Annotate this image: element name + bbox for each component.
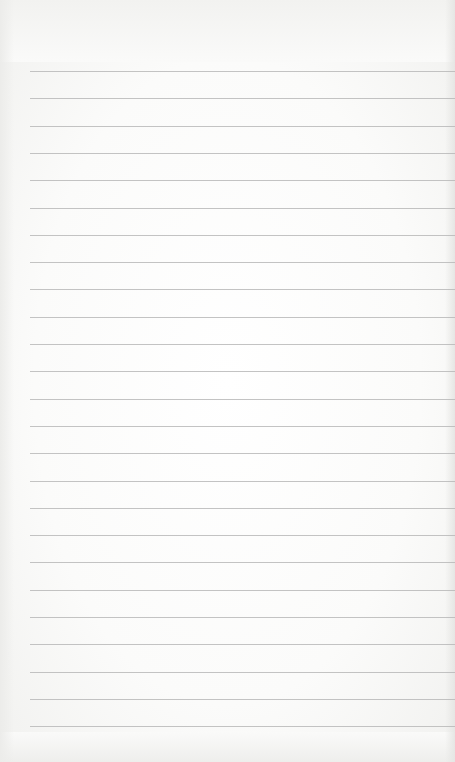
ruled-line: [30, 453, 455, 454]
ruled-line: [30, 672, 455, 673]
ruled-line: [30, 71, 455, 72]
ruled-line: [30, 371, 455, 372]
ruled-line: [30, 508, 455, 509]
lined-paper-sheet: [0, 0, 455, 762]
ruled-line: [30, 235, 455, 236]
ruled-line: [30, 153, 455, 154]
ruled-line: [30, 344, 455, 345]
ruled-line: [30, 481, 455, 482]
ruled-line: [30, 289, 455, 290]
ruled-line: [30, 535, 455, 536]
ruled-line: [30, 317, 455, 318]
ruled-line: [30, 262, 455, 263]
ruled-line: [30, 644, 455, 645]
ruled-line: [30, 208, 455, 209]
ruled-line: [30, 617, 455, 618]
ruled-line: [30, 726, 455, 727]
bottom-margin: [0, 732, 455, 762]
ruled-line: [30, 426, 455, 427]
ruled-line: [30, 180, 455, 181]
ruled-line: [30, 399, 455, 400]
top-margin: [0, 0, 455, 62]
ruled-line: [30, 590, 455, 591]
left-edge-shadow: [0, 0, 14, 762]
right-edge-shadow: [445, 0, 455, 762]
ruled-line: [30, 562, 455, 563]
ruled-line: [30, 699, 455, 700]
ruled-line: [30, 98, 455, 99]
ruled-line: [30, 126, 455, 127]
